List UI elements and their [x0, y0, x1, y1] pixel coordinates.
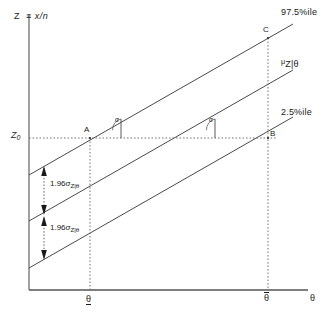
curve-label-97-5-text: 97.5%ile	[281, 7, 317, 17]
band-upper-subscript: Z|θ	[70, 182, 79, 189]
angle-label-alpha-right: α	[209, 117, 213, 124]
theta-upper-symbol: θ	[264, 293, 269, 303]
y-axis-label-symbol: Z	[14, 11, 20, 21]
z0-subscript: 0	[17, 134, 21, 141]
point-b-marker	[267, 137, 269, 139]
point-a-marker	[89, 137, 91, 139]
angle-label-alpha-left: α	[115, 117, 119, 124]
band-lower-subscript: Z|θ	[70, 226, 79, 233]
point-label-c: C	[263, 26, 269, 34]
point-label-b: B	[270, 130, 275, 138]
curve-label-97-5-percentile: 97.5%ile	[281, 8, 317, 17]
band-lower-coefficient: 1.96	[50, 223, 66, 232]
curve-label-2-5-text: 2.5%ile	[281, 107, 312, 117]
curve-97-5-percentile	[29, 24, 293, 175]
point-label-a: A	[84, 126, 89, 134]
band-label-lower: 1.96σZ|θ	[50, 224, 79, 233]
band-upper-coefficient: 1.96	[50, 179, 66, 188]
band-label-upper: 1.96σZ|θ	[50, 180, 79, 189]
figure-canvas	[0, 0, 335, 316]
x-axis-label: θ	[310, 294, 315, 303]
y-axis-label: Z≡x/n	[14, 12, 48, 21]
y-tick-label-z0: Z0	[11, 131, 20, 141]
curve-2-5-percentile	[29, 117, 293, 268]
lower-band-arrowhead-top	[41, 216, 47, 226]
point-c-marker	[267, 37, 269, 39]
confidence-interval-figure: Z≡x/n Z0 97.5%ile μZ|θ 2.5%ile A B C α α…	[0, 0, 335, 316]
mu-subscript: Z|θ	[285, 59, 298, 69]
curve-mean	[29, 70, 293, 221]
curve-label-mean: μZ|θ	[281, 58, 299, 69]
theta-lower-symbol: θ	[86, 294, 91, 305]
curve-label-2-5-percentile: 2.5%ile	[281, 108, 312, 117]
y-axis-label-equiv: ≡	[26, 11, 32, 21]
y-axis-label-expression: x/n	[35, 11, 49, 21]
x-tick-label-theta-lower: θ	[86, 295, 91, 304]
x-tick-label-theta-upper: θ	[264, 294, 269, 303]
